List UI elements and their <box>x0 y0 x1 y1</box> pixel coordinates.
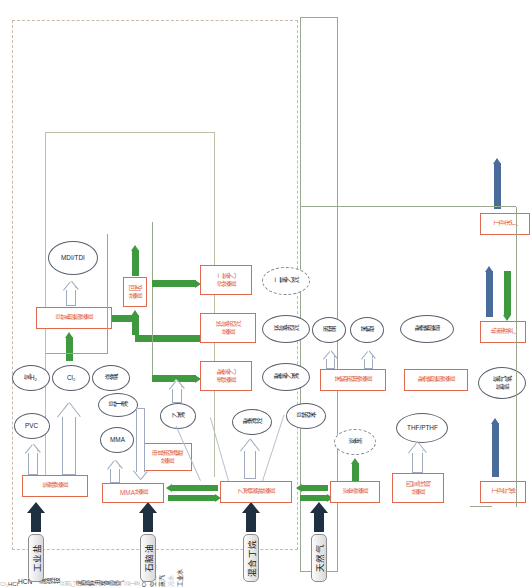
flow-hcn-down <box>168 495 216 501</box>
navy-arrow-natgas <box>310 502 328 532</box>
product-label-po: 环氧丙烷 <box>274 326 298 333</box>
product-ellipse-airgas[interactable]: 氮气氧 氩氩 <box>478 367 526 399</box>
plant-box-po[interactable]: 环氧丙烷 装置 <box>200 313 256 343</box>
arrowhead-steam <box>485 266 493 272</box>
feed-label-natgas: 天然气 <box>313 544 325 573</box>
plant-box-pc[interactable]: 聚碳酸酯装置 <box>404 369 468 391</box>
product-label-thf: THF/PTHF <box>407 425 438 432</box>
product-ellipse-thf[interactable]: THF/PTHF <box>396 413 448 443</box>
feed-chip-naphtha: 石脑油 <box>140 534 156 582</box>
product-ellipse-ethylene[interactable]: 乙烯 <box>160 403 196 429</box>
plant-label-cracker: 乙烯裂解装置 <box>238 489 274 496</box>
stream-text-butene: 异丁烷 <box>124 580 139 586</box>
navy-arrow-naphtha <box>139 502 157 532</box>
plant-box-mma[interactable]: MMA装置 <box>102 483 164 503</box>
product-ellipse-cl2[interactable]: Cl₂ <box>52 365 90 391</box>
flow-indwater <box>494 163 501 209</box>
plant-box-waterworks[interactable]: 工业水厂 <box>480 213 530 235</box>
product-label-pvc: PVC <box>25 423 38 430</box>
product-ellipse-pc[interactable]: 聚碳酸酯 <box>400 315 454 343</box>
plant-box-thf[interactable]: 四氢呋喃 装置 <box>392 473 444 503</box>
arrowhead-indwater <box>493 158 501 164</box>
product-ellipse-h2[interactable]: 氢H₂ <box>12 365 50 391</box>
plant-label-edc: 二氯乙 烷装置 <box>217 273 235 288</box>
plant-label-phenolacetone: 苯酚丙酮装置 <box>335 377 371 384</box>
product-label-h2: 氢H₂ <box>24 375 37 382</box>
flow-sewage <box>504 271 511 315</box>
plant-label-recovery: 回收 装置 <box>129 285 141 300</box>
product-ellipse-mma[interactable]: MMA <box>100 427 134 453</box>
product-label-carbonblack: 炭黑 <box>349 439 361 446</box>
product-ellipse-mditdi[interactable]: MDI/TDI <box>48 241 98 275</box>
product-ellipse-pvc[interactable]: PVC <box>14 413 50 439</box>
flow-cl2-to-isocyanate <box>66 337 73 361</box>
stream-label-wasteoil: 废裂解油 <box>76 578 100 587</box>
product-label-polyolefin: 聚烯烃 <box>243 419 261 426</box>
product-ellipse-naoh[interactable]: 烧碱 <box>92 365 130 391</box>
stream-text-cbtail: 炭黑尾气 <box>100 580 124 586</box>
plant-label-chloralkali: 氯碱装置 <box>43 483 67 490</box>
product-label-airgas: 氮气氧 氩氩 <box>493 376 511 391</box>
hcl-trunk <box>135 335 207 342</box>
flow-wasteoil-down <box>300 495 328 501</box>
product-ellipse-po[interactable]: 环氧丙烷 <box>262 315 310 343</box>
product-label-edc: 二氯乙烷 <box>274 278 298 285</box>
product-ellipse-acetone[interactable]: 丙酮 <box>312 317 346 343</box>
product-ellipse-phenol[interactable]: 苯酚 <box>350 317 384 343</box>
product-label-acetone: 丙酮 <box>323 327 335 334</box>
plant-label-mal: 甲基丙烯醛 装置 <box>152 450 182 465</box>
product-ellipse-cumene[interactable]: 异丙苯 <box>286 403 326 429</box>
product-label-naoh: 烧碱 <box>105 375 117 382</box>
plant-box-indgas[interactable]: 工业气体 <box>480 481 526 503</box>
product-label-pvc-poly: 聚氯乙烯 <box>274 374 298 381</box>
utility-manifold-bottom <box>516 207 517 507</box>
product-label-phenol: 苯酚 <box>361 327 373 334</box>
stream-text-sewage: 污水 <box>168 575 174 587</box>
product-ellipse-carbonblack[interactable]: 炭黑 <box>334 429 376 455</box>
arrowhead-cbtail-up <box>296 485 302 493</box>
product-ellipse-polyolefin[interactable]: 聚烯烃 <box>232 409 272 435</box>
plant-box-chp[interactable]: 热电联产 <box>480 321 526 343</box>
feed-label-naphtha: 石脑油 <box>142 544 154 573</box>
stream-label-cl2: Cl₂ <box>0 581 8 587</box>
plant-box-recovery[interactable]: 回收 装置 <box>123 277 147 307</box>
arrowhead-sewage <box>503 315 511 321</box>
plant-box-carbonblack[interactable]: 炭黑装置 <box>330 481 380 503</box>
flow-co-h2 <box>492 423 499 477</box>
product-ellipse-isobutene[interactable]: 异丁烯 <box>98 393 138 417</box>
product-label-mma: MMA <box>110 437 125 444</box>
plant-box-isocyanate[interactable]: 异氰酸酯装置 <box>36 307 112 329</box>
feed-label-butane: 混合丁烷 <box>245 539 257 577</box>
product-label-mditdi: MDI/TDI <box>61 255 85 262</box>
stream-text-hcl: HCl <box>8 581 18 587</box>
plant-label-pvcplant: 聚氯乙 烯装置 <box>217 369 235 384</box>
utility-manifold-top <box>470 506 492 507</box>
product-ellipse-edc[interactable]: 二氯乙烷 <box>262 267 310 295</box>
product-label-pc: 聚碳酸酯 <box>415 326 439 333</box>
stream-label-hcl: HCl <box>8 581 18 587</box>
feed-chip-natgas: 天然气 <box>311 534 327 582</box>
stream-label-butene: 异丁烷 <box>124 579 139 587</box>
flow-recovery-out <box>132 250 139 276</box>
feed-label-salt: 工业盐 <box>30 544 42 573</box>
product-label-cumene: 异丙苯 <box>297 413 315 420</box>
arrowhead-cl2-isocyanate <box>65 332 73 338</box>
plant-box-cracker[interactable]: 乙烯裂解装置 <box>220 481 292 503</box>
plant-label-waterworks: 工业水厂 <box>493 221 517 228</box>
feed-chip-butane: 混合丁烷 <box>243 534 259 582</box>
plant-box-phenolacetone[interactable]: 苯酚丙酮装置 <box>320 369 386 391</box>
product-ellipse-pvc-poly[interactable]: 聚氯乙烯 <box>262 363 310 391</box>
navy-arrow-butane <box>242 502 260 532</box>
product-label-cl2: Cl₂ <box>67 375 76 382</box>
product-label-isobutene: 异丁烯 <box>109 402 127 409</box>
plant-box-edc[interactable]: 二氯乙 烷装置 <box>200 265 252 295</box>
recovery-branch-h <box>152 222 153 382</box>
stream-text-indwater: 工业水 <box>177 569 183 587</box>
plant-box-chloralkali[interactable]: 氯碱装置 <box>22 475 88 497</box>
plant-box-pvcplant[interactable]: 聚氯乙 烯装置 <box>200 361 252 391</box>
plant-label-chp: 热电联产 <box>491 329 515 336</box>
arrowhead-hcn-up <box>166 485 172 493</box>
stream-text-steam: 蒸汽 <box>159 575 165 587</box>
